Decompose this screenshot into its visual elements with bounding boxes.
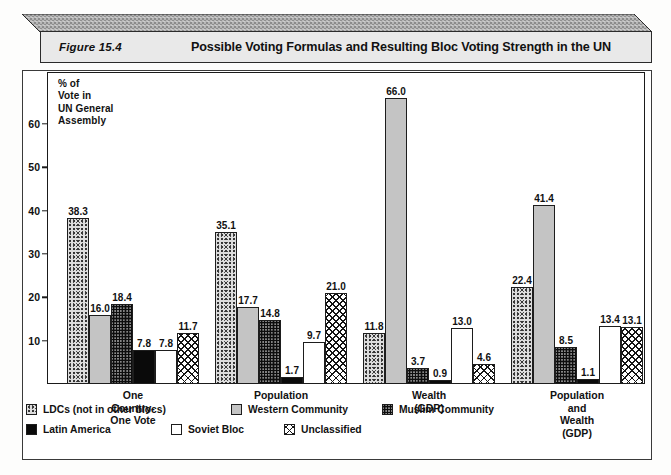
bar-ldcs-not-in-other-blocs-3[interactable]: 11.8	[363, 333, 385, 384]
y-tick-mark-30	[42, 253, 47, 254]
legend-label: LDCs (not in other blocs)	[43, 404, 166, 415]
bar-value-label: 4.6	[477, 352, 491, 363]
legend-item-soviet-bloc[interactable]: Soviet Bloc	[171, 424, 244, 435]
bar-western-community-4[interactable]: 41.4	[533, 205, 555, 384]
bar-muslim-community-4[interactable]: 8.5	[555, 347, 577, 384]
y-tick-mark-20	[42, 297, 47, 298]
bar-value-label: 13.0	[452, 316, 471, 327]
bar-value-label: 18.4	[112, 292, 131, 303]
legend-label: Latin America	[43, 424, 111, 435]
figure-banner: Figure 15.4 Possible Voting Formulas and…	[22, 14, 652, 64]
y-tick-mark-40	[42, 210, 47, 211]
bar-value-label: 35.1	[216, 220, 235, 231]
legend-swatch-icon	[26, 424, 37, 435]
bar-latin-america-2[interactable]: 1.7	[281, 377, 303, 384]
bar-soviet-bloc-1[interactable]: 7.8	[155, 350, 177, 384]
y-tick-mark-10	[42, 340, 47, 341]
bar-unclassified-3[interactable]: 4.6	[473, 364, 495, 384]
bar-value-label: 9.7	[307, 330, 321, 341]
legend-row-1: LDCs (not in other blocs)Western Communi…	[26, 404, 646, 424]
chart-legend: LDCs (not in other blocs)Western Communi…	[26, 404, 646, 444]
legend-item-muslim-community[interactable]: Muslim Community	[382, 404, 494, 415]
legend-swatch-icon	[231, 404, 242, 415]
bar-western-community-1[interactable]: 16.0	[89, 315, 111, 384]
legend-label: Unclassified	[301, 424, 362, 435]
legend-swatch-icon	[26, 404, 37, 415]
bar-western-community-2[interactable]: 17.7	[237, 307, 259, 384]
bar-value-label: 13.1	[622, 315, 641, 326]
x-axis-group-label-2: Population	[254, 389, 308, 402]
bar-value-label: 13.4	[600, 314, 619, 325]
bar-muslim-community-3[interactable]: 3.7	[407, 368, 429, 384]
bar-ldcs-not-in-other-blocs-1[interactable]: 38.3	[67, 218, 89, 384]
legend-swatch-icon	[382, 404, 393, 415]
legend-swatch-icon	[284, 424, 295, 435]
y-tick-mark-60	[42, 123, 47, 124]
bar-muslim-community-2[interactable]: 14.8	[259, 320, 281, 384]
y-tick-mark-50	[42, 167, 47, 168]
bar-value-label: 3.7	[411, 356, 425, 367]
legend-item-unclassified[interactable]: Unclassified	[284, 424, 362, 435]
bar-group-1: 38.316.018.47.87.811.7One Country- One V…	[67, 72, 199, 384]
bar-unclassified-1[interactable]: 11.7	[177, 333, 199, 384]
legend-item-ldcs-not-in-other-blocs[interactable]: LDCs (not in other blocs)	[26, 404, 166, 415]
bar-ldcs-not-in-other-blocs-4[interactable]: 22.4	[511, 287, 533, 384]
bar-value-label: 41.4	[534, 193, 553, 204]
bar-value-label: 22.4	[512, 275, 531, 286]
bar-value-label: 16.0	[90, 303, 109, 314]
bar-latin-america-3[interactable]: 0.9	[429, 380, 451, 384]
bar-value-label: 7.8	[159, 338, 173, 349]
legend-item-latin-america[interactable]: Latin America	[26, 424, 111, 435]
banner-top-face	[22, 14, 652, 32]
bar-group-3: 11.866.03.70.913.04.6Wealth (GDP)	[363, 72, 495, 384]
bar-value-label: 11.8	[365, 321, 384, 332]
bar-latin-america-4[interactable]: 1.1	[577, 379, 599, 384]
bar-value-label: 14.8	[260, 308, 279, 319]
plot-area: % of Vote in UN General Assembly 1020304…	[47, 72, 645, 384]
bar-unclassified-2[interactable]: 21.0	[325, 293, 347, 384]
bar-value-label: 66.0	[386, 86, 405, 97]
bar-value-label: 7.8	[137, 338, 151, 349]
legend-label: Western Community	[248, 404, 348, 415]
bar-soviet-bloc-3[interactable]: 13.0	[451, 328, 473, 384]
legend-swatch-icon	[171, 424, 182, 435]
banner-front-face: Figure 15.4 Possible Voting Formulas and…	[40, 31, 652, 63]
bar-group-4: 22.441.48.51.113.413.1Population and Wea…	[511, 72, 643, 384]
bar-soviet-bloc-2[interactable]: 9.7	[303, 342, 325, 384]
bar-value-label: 1.1	[581, 367, 595, 378]
legend-label: Soviet Bloc	[188, 424, 244, 435]
legend-row-2: Latin AmericaSoviet BlocUnclassified	[26, 424, 646, 444]
bar-value-label: 17.7	[238, 295, 257, 306]
legend-item-western-community[interactable]: Western Community	[231, 404, 348, 415]
bar-value-label: 38.3	[68, 206, 87, 217]
bar-ldcs-not-in-other-blocs-2[interactable]: 35.1	[215, 232, 237, 384]
bar-soviet-bloc-4[interactable]: 13.4	[599, 326, 621, 384]
legend-label: Muslim Community	[399, 404, 494, 415]
bar-value-label: 1.7	[285, 365, 299, 376]
figure-page: Figure 15.4 Possible Voting Formulas and…	[0, 0, 671, 475]
figure-title: Possible Voting Formulas and Resulting B…	[187, 40, 651, 54]
bar-group-2: 35.117.714.81.79.721.0Population	[215, 72, 347, 384]
bar-value-label: 0.9	[433, 368, 447, 379]
bar-value-label: 11.7	[179, 321, 198, 332]
bar-value-label: 21.0	[326, 281, 345, 292]
bar-western-community-3[interactable]: 66.0	[385, 98, 407, 384]
bar-muslim-community-1[interactable]: 18.4	[111, 304, 133, 384]
figure-number: Figure 15.4	[41, 41, 187, 53]
bar-unclassified-4[interactable]: 13.1	[621, 327, 643, 384]
bar-value-label: 8.5	[559, 335, 573, 346]
bar-latin-america-1[interactable]: 7.8	[133, 350, 155, 384]
